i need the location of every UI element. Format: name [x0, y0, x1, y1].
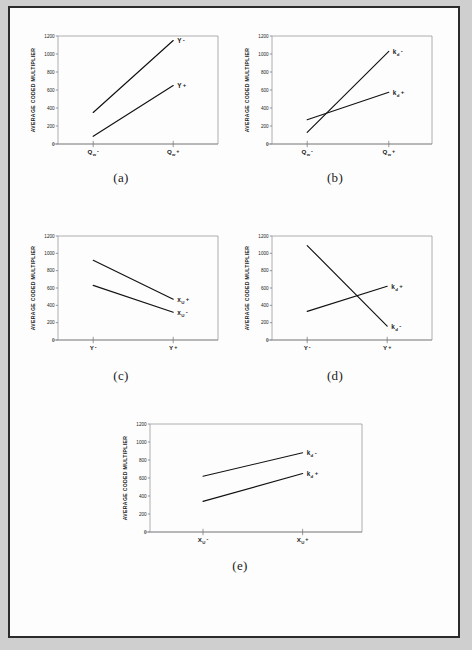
- y-tick-label: 200: [47, 124, 55, 129]
- panel-caption-c: (c): [18, 368, 224, 384]
- x-tick-label: XU+: [297, 536, 309, 545]
- y-tick-label: 400: [47, 303, 55, 308]
- x-tick-label: Qw+: [382, 148, 395, 157]
- plot-b: 120010008006004002000AVERAGE CODED MULTI…: [232, 20, 438, 170]
- panel-a: 120010008006004002000AVERAGE CODED MULTI…: [18, 20, 224, 170]
- panel-caption-a: (a): [18, 170, 224, 186]
- y-tick-label: 1200: [136, 422, 147, 427]
- series-line: [93, 285, 173, 312]
- y-tick-label: 0: [52, 338, 55, 343]
- y-tick-label: 1200: [44, 34, 55, 39]
- y-tick-label: 400: [261, 303, 269, 308]
- series-label: xU-: [177, 309, 188, 318]
- y-tick-label: 400: [139, 494, 147, 499]
- y-tick-label: 400: [261, 106, 269, 111]
- y-tick-label: 1200: [44, 234, 55, 239]
- x-tick-label: Qw-: [302, 148, 313, 157]
- y-tick-label: 800: [47, 70, 55, 75]
- y-tick-label: 600: [261, 88, 269, 93]
- y-axis-title: AVERAGE CODED MULTIPLIER: [244, 48, 250, 133]
- series-line: [93, 260, 173, 299]
- figure-sheet: 120010008006004002000AVERAGE CODED MULTI…: [8, 6, 460, 638]
- y-tick-label: 600: [47, 88, 55, 93]
- series-line: [203, 453, 303, 476]
- y-tick-label: 800: [261, 268, 269, 273]
- y-tick-label: 200: [261, 320, 269, 325]
- y-axis-title: AVERAGE CODED MULTIPLIER: [30, 48, 36, 133]
- series-label: kd+: [307, 470, 319, 479]
- plot-e: 120010008006004002000AVERAGE CODED MULTI…: [110, 408, 370, 558]
- y-axis-title: AVERAGE CODED MULTIPLIER: [30, 246, 36, 331]
- plot-frame: [58, 236, 218, 340]
- x-tick-label: Y+: [169, 344, 177, 351]
- series-label: Y+: [177, 82, 187, 89]
- panel-c: 120010008006004002000AVERAGE CODED MULTI…: [18, 220, 224, 365]
- y-tick-label: 600: [139, 476, 147, 481]
- series-label: kd-: [393, 48, 403, 57]
- x-tick-label: Y+: [383, 344, 391, 351]
- series-line: [307, 246, 387, 327]
- plot-a: 120010008006004002000AVERAGE CODED MULTI…: [18, 20, 224, 170]
- y-tick-label: 0: [52, 142, 55, 147]
- y-tick-label: 0: [266, 338, 269, 343]
- y-tick-label: 0: [266, 142, 269, 147]
- series-line: [93, 41, 173, 113]
- plot-frame: [58, 36, 218, 144]
- y-tick-label: 200: [261, 124, 269, 129]
- y-tick-label: 400: [47, 106, 55, 111]
- series-label: Y-: [177, 37, 185, 44]
- panel-caption-e: (e): [110, 558, 370, 574]
- series-line: [307, 51, 389, 132]
- series-label: kd+: [393, 89, 405, 98]
- y-tick-label: 800: [261, 70, 269, 75]
- y-axis-title: AVERAGE CODED MULTIPLIER: [244, 246, 250, 331]
- x-tick-label: Y-: [90, 344, 97, 351]
- y-tick-label: 1000: [258, 251, 269, 256]
- y-tick-label: 800: [139, 458, 147, 463]
- series-label: kd-: [307, 449, 317, 458]
- y-tick-label: 1000: [44, 251, 55, 256]
- series-line: [203, 474, 303, 502]
- y-tick-label: 1000: [258, 52, 269, 57]
- figure-page: 120010008006004002000AVERAGE CODED MULTI…: [0, 0, 472, 650]
- series-label: kd+: [391, 283, 403, 292]
- panel-b: 120010008006004002000AVERAGE CODED MULTI…: [232, 20, 438, 170]
- x-tick-label: XU-: [198, 536, 209, 545]
- series-line: [307, 92, 389, 119]
- panel-e: 120010008006004002000AVERAGE CODED MULTI…: [110, 408, 370, 558]
- plot-frame: [272, 236, 432, 340]
- x-tick-label: Qw+: [167, 148, 180, 157]
- plot-c: 120010008006004002000AVERAGE CODED MULTI…: [18, 220, 224, 365]
- y-tick-label: 1200: [258, 234, 269, 239]
- x-tick-label: Y-: [304, 344, 311, 351]
- plot-frame: [272, 36, 432, 144]
- series-label: xU+: [177, 296, 190, 305]
- y-tick-label: 800: [47, 268, 55, 273]
- y-tick-label: 1000: [44, 52, 55, 57]
- y-tick-label: 200: [139, 512, 147, 517]
- y-axis-title: AVERAGE CODED MULTIPLIER: [122, 436, 128, 521]
- y-tick-label: 1200: [258, 34, 269, 39]
- plot-d: 120010008006004002000AVERAGE CODED MULTI…: [232, 220, 438, 365]
- series-line: [307, 286, 387, 311]
- x-tick-label: Qw-: [88, 148, 99, 157]
- series-label: kd-: [391, 323, 401, 332]
- y-tick-label: 200: [47, 320, 55, 325]
- panel-caption-d: (d): [232, 368, 438, 384]
- series-line: [93, 86, 173, 137]
- y-tick-label: 600: [47, 286, 55, 291]
- y-tick-label: 600: [261, 286, 269, 291]
- plot-frame: [150, 424, 362, 532]
- y-tick-label: 1000: [136, 440, 147, 445]
- panel-d: 120010008006004002000AVERAGE CODED MULTI…: [232, 220, 438, 365]
- y-tick-label: 0: [144, 530, 147, 535]
- panel-caption-b: (b): [232, 170, 438, 186]
